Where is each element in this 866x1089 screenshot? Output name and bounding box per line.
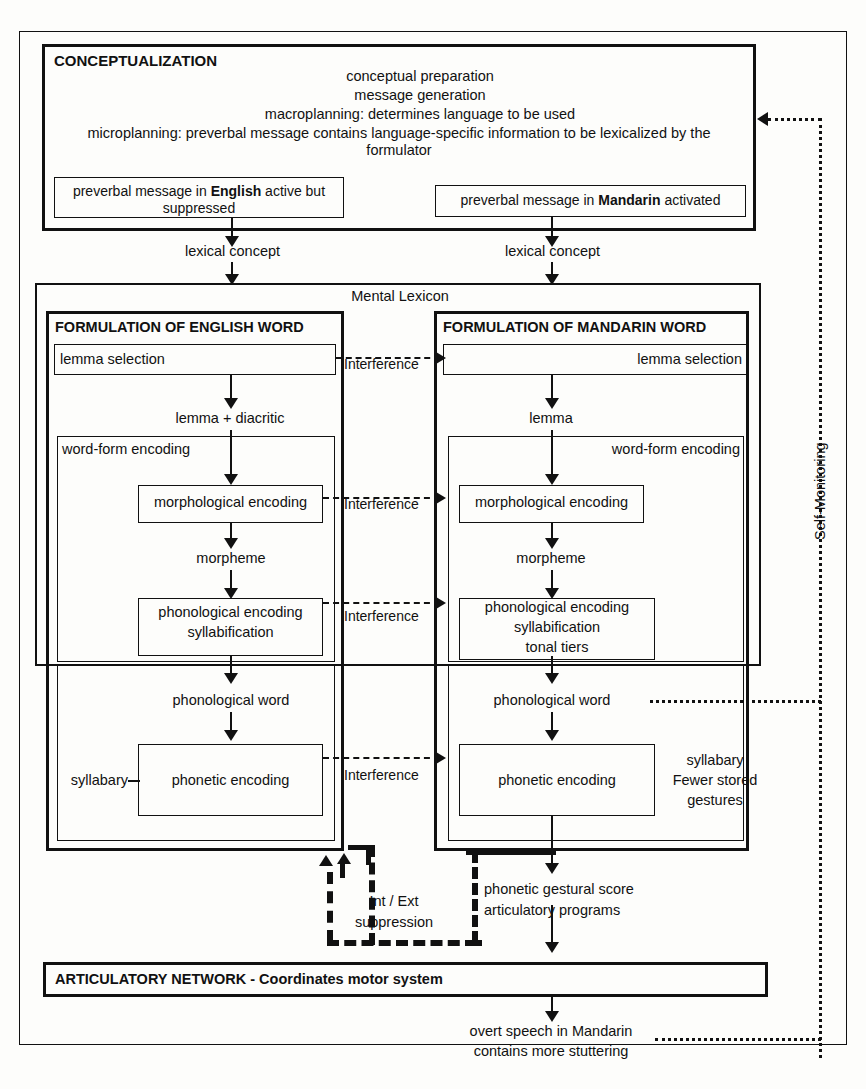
self-monitoring-branch-overt-speech	[655, 1038, 821, 1041]
articulatory-to-speech-head	[545, 1011, 559, 1022]
mandarin-phonological-encoding-line2: syllabification	[461, 619, 653, 636]
preverbal-mandarin-pre: preverbal message in	[461, 192, 599, 208]
conceptualization-line-4: microplanning: preverbal message contain…	[54, 125, 744, 159]
preverbal-english-label: preverbal message in English active but …	[58, 183, 340, 216]
interference-arrow-4	[323, 757, 440, 759]
english-wf-arrow-head	[224, 474, 238, 485]
mandarin-morphological-encoding-label: morphological encoding	[461, 494, 642, 511]
mandarin-phonological-encoding-line1: phonological encoding	[461, 599, 653, 616]
english-lemma-selection-label: lemma selection	[60, 351, 310, 368]
overt-speech-line2: contains more stuttering	[450, 1043, 652, 1060]
preverbal-mandarin-post: activated	[661, 192, 721, 208]
conceptualization-line-3: macroplanning: determines language to be…	[100, 106, 740, 123]
english-phonword-arrow-head-2	[224, 730, 238, 741]
self-monitoring-branch-phonological	[650, 700, 821, 703]
mandarin-phonetic-encoding-label: phonetic encoding	[461, 772, 653, 789]
mandarin-lemma-selection-label: lemma selection	[490, 351, 742, 368]
mandarin-syllabary-note-line2: Fewer stored	[659, 772, 771, 789]
mandarin-formulation-title: FORMULATION OF MANDARIN WORD	[443, 319, 753, 336]
conceptualization-line-1: conceptual preparation	[120, 68, 720, 85]
mandarin-wf-arrow-line	[551, 430, 553, 478]
suppression-arrow-head-1	[319, 855, 333, 866]
english-lemma-label: lemma + diacritic	[150, 410, 310, 427]
english-formulation-title: FORMULATION OF ENGLISH WORD	[55, 319, 345, 336]
english-syllabary-label: syllabary	[56, 772, 128, 789]
english-morpheme-label: morpheme	[170, 550, 292, 567]
english-phonological-word-label: phonological word	[152, 692, 310, 709]
mandarin-to-articulatory-line-a	[551, 816, 553, 868]
gestural-bracket-top	[466, 851, 556, 855]
conceptualization-line-2: message generation	[120, 87, 720, 104]
overt-speech-line1: overt speech in Mandarin	[450, 1023, 652, 1040]
english-lemma-arrow-line	[230, 375, 232, 400]
gestural-score-line1: phonetic gestural score	[484, 881, 704, 898]
preverbal-english-pre: preverbal message in	[73, 183, 211, 199]
suppression-arrow-stem-2	[340, 862, 345, 878]
suppression-label-line1: Int / Ext	[340, 893, 448, 910]
mandarin-lemma-label: lemma	[490, 410, 612, 427]
mandarin-to-articulatory-line-b	[551, 905, 553, 947]
preverbal-mandarin-bold: Mandarin	[598, 192, 660, 208]
interference-arrow-3	[323, 602, 440, 604]
self-monitoring-label: Self-Monitoring	[812, 442, 829, 540]
suppression-label-line2: suppression	[340, 914, 448, 931]
mandarin-to-articulatory-head-a	[545, 863, 559, 874]
mandarin-phonword-arrow-head	[545, 673, 559, 684]
mandarin-morph-arrow-head	[545, 538, 559, 549]
english-phonetic-encoding-label: phonetic encoding	[140, 772, 321, 789]
english-phonological-encoding-line1: phonological encoding	[140, 604, 321, 621]
interference-label-1: Interference	[344, 356, 442, 373]
suppression-loop-bottom	[327, 940, 477, 946]
suppression-loop-left	[327, 872, 333, 942]
preverbal-mandarin-label: preverbal message in Mandarin activated	[439, 192, 742, 209]
english-phonological-encoding-line2: syllabification	[140, 624, 321, 641]
lexical-concept-left-label: lexical concept	[160, 243, 305, 260]
self-monitoring-line-vertical	[819, 118, 822, 1058]
mandarin-phonological-word-label: phonological word	[473, 692, 631, 709]
english-word-form-encoding-label: word-form encoding	[62, 441, 262, 458]
mandarin-to-articulatory-head-b	[545, 942, 559, 953]
suppression-loop-right-stub	[366, 845, 371, 865]
gestural-score-line2: articulatory programs	[484, 902, 704, 919]
english-morph-arrow-head	[224, 538, 238, 549]
interference-label-2: Interference	[344, 496, 442, 513]
mandarin-syllabary-note-line3: gestures	[659, 792, 771, 809]
gestural-bracket-vertical	[472, 851, 478, 943]
articulatory-network-label: ARTICULATORY NETWORK - Coordinates motor…	[55, 971, 755, 988]
interference-label-4: Interference	[344, 767, 442, 784]
mandarin-phonological-encoding-line3: tonal tiers	[461, 639, 653, 656]
self-monitoring-arrow-head-top	[757, 112, 768, 126]
mandarin-syllabary-note-line1: syllabary	[659, 752, 771, 769]
mandarin-phonword-arrow-head-2	[545, 730, 559, 741]
preverbal-english-bold: English	[211, 183, 262, 199]
english-wf-arrow-line	[230, 430, 232, 478]
lexical-concept-right-label: lexical concept	[480, 243, 625, 260]
arrow-line-english-lexical-a	[231, 218, 233, 238]
mandarin-word-form-encoding-label: word-form encoding	[540, 441, 740, 458]
mandarin-morpheme-label: morpheme	[490, 550, 612, 567]
english-syllabary-connector	[128, 780, 140, 782]
interference-arrowhead-4	[436, 752, 446, 764]
interference-label-3: Interference	[344, 608, 442, 625]
english-phonword-arrow-head	[224, 673, 238, 684]
english-morphological-encoding-label: morphological encoding	[140, 494, 321, 511]
diagram-canvas: CONCEPTUALIZATION conceptual preparation…	[0, 0, 866, 1089]
mandarin-wf-arrow-head	[545, 474, 559, 485]
self-monitoring-line-top	[768, 118, 821, 121]
arrow-line-mandarin-lexical-a	[551, 217, 553, 238]
mental-lexicon-label: Mental Lexicon	[280, 288, 520, 305]
mandarin-lemma-arrow-head	[545, 398, 559, 409]
mandarin-lemma-arrow-line	[551, 375, 553, 400]
gestural-bracket-bottom	[472, 940, 482, 946]
english-lemma-arrow-head	[224, 398, 238, 409]
